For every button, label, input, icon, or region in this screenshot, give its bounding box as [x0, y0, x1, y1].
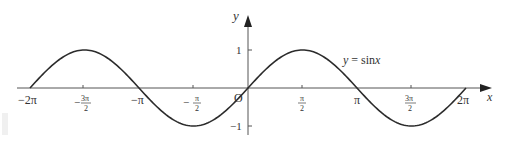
curve-label-eq: = sin	[348, 53, 375, 67]
x-tick-label-pi2: π 2	[298, 94, 306, 113]
svg-text:−: −	[183, 96, 189, 108]
curve-label-x: x	[374, 53, 381, 67]
svg-text:2: 2	[195, 104, 199, 113]
edge-artifact	[2, 113, 8, 135]
svg-text:π: π	[300, 94, 304, 103]
svg-text:−: −	[74, 96, 80, 108]
x-tick-label-3pi2: 3π 2	[405, 94, 416, 113]
y-tick-label-1: 1	[236, 44, 242, 56]
origin-label: O	[234, 91, 243, 105]
x-tick-label-neg3pi2: − 3π 2	[74, 94, 91, 113]
y-axis-arrow-icon	[244, 15, 252, 27]
curve-label: y = sinx	[342, 53, 381, 67]
x-tick-label-2pi: 2π	[457, 93, 469, 107]
x-tick-label-negpi2: − π 2	[183, 94, 201, 113]
x-tick-label-neg2pi: −2π	[18, 93, 37, 107]
y-axis-label: y	[231, 8, 239, 23]
svg-text:2: 2	[408, 104, 412, 113]
svg-text:π: π	[195, 94, 199, 103]
svg-text:3π: 3π	[81, 94, 89, 103]
sine-chart: y x 1 −1 O y = sinx −2π −π π 2π − 3π 2 −…	[0, 0, 506, 143]
svg-text:2: 2	[84, 104, 88, 113]
x-tick-label-negpi: −π	[131, 93, 144, 107]
x-tick-label-pi: π	[354, 93, 360, 107]
svg-text:3π: 3π	[405, 94, 413, 103]
y-tick-label-neg1: −1	[230, 120, 242, 132]
svg-text:2: 2	[300, 104, 304, 113]
x-axis-label: x	[486, 90, 493, 104]
